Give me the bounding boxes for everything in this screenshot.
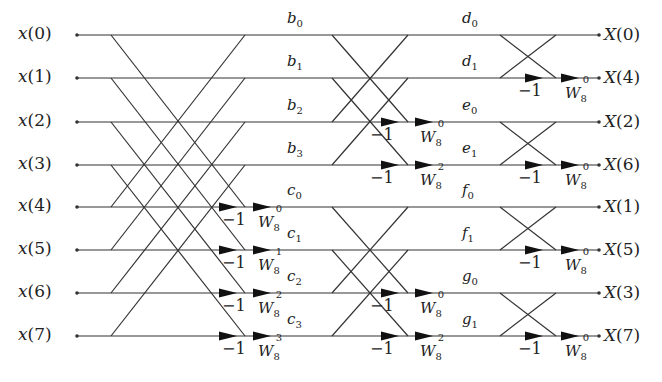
stage1-minus-one-label: −1 — [222, 298, 246, 314]
input-node-dot — [75, 205, 79, 209]
stage3-minus-one-label: −1 — [518, 83, 542, 99]
stage1-twiddle-label: W80 — [258, 213, 286, 233]
stage3-twiddle-arrow — [561, 332, 579, 341]
input-label-2: x(2) — [18, 112, 52, 129]
stage1-twiddle-arrow — [253, 246, 271, 255]
input-label-1: x(1) — [18, 68, 52, 85]
stage3-twiddle-arrow — [561, 161, 579, 170]
input-node-dot — [75, 248, 79, 252]
output-node-dot — [597, 33, 601, 37]
stage2-minus-one-label: −1 — [370, 341, 394, 357]
stage1-twiddle-arrow — [253, 332, 271, 341]
node-label-e0: e0 — [462, 98, 477, 116]
node-label-c1: c1 — [287, 226, 302, 244]
input-node-dot — [75, 291, 79, 295]
stage2-twiddle-label: W82 — [420, 171, 448, 191]
stage3-twiddle-label: W80 — [565, 171, 593, 191]
stage1-minus-one-label: −1 — [222, 255, 246, 271]
node-label-b1: b1 — [287, 54, 303, 72]
input-label-7: x(7) — [18, 326, 52, 343]
node-label-c0: c0 — [287, 183, 302, 201]
input-label-6: x(6) — [18, 283, 52, 300]
stage2-minus-one-label: −1 — [370, 127, 394, 143]
output-label-6: X(3) — [604, 284, 640, 301]
stage2-twiddle-label: W80 — [420, 299, 448, 319]
output-node-dot — [597, 120, 601, 124]
stage2-twiddle-label: W82 — [420, 342, 448, 362]
output-label-7: X(7) — [604, 327, 640, 344]
stage3-twiddle-label: W80 — [565, 256, 593, 276]
output-node-dot — [597, 205, 601, 209]
stage3-minus-one-label: −1 — [518, 255, 542, 271]
stage3-minus-one-label: −1 — [518, 170, 542, 186]
output-node-dot — [597, 76, 601, 80]
node-label-g0: g0 — [462, 269, 478, 287]
node-label-b3: b3 — [287, 141, 303, 159]
stage2-minus-one-label: −1 — [370, 170, 394, 186]
node-label-c2: c2 — [287, 269, 302, 287]
node-label-d0: d0 — [462, 11, 478, 29]
output-label-2: X(2) — [604, 113, 640, 130]
stage2-minus-one-label: −1 — [370, 298, 394, 314]
input-label-3: x(3) — [18, 155, 52, 172]
output-node-dot — [597, 163, 601, 167]
input-label-5: x(5) — [18, 240, 52, 257]
stage2-twiddle-arrow — [415, 118, 433, 127]
output-label-1: X(4) — [604, 69, 640, 86]
stage1-minus-one-label: −1 — [222, 212, 246, 228]
stage2-twiddle-arrow — [415, 289, 433, 298]
stage3-minus-one-label: −1 — [518, 341, 542, 357]
node-label-c3: c3 — [287, 312, 302, 330]
node-label-f0: f0 — [462, 183, 474, 201]
output-label-3: X(6) — [604, 156, 640, 173]
output-label-5: X(5) — [604, 241, 640, 258]
stage3-twiddle-arrow — [561, 74, 579, 83]
output-label-4: X(1) — [604, 198, 640, 215]
input-label-0: x(0) — [18, 25, 52, 42]
output-label-0: X(0) — [604, 26, 640, 43]
stage3-twiddle-arrow — [561, 246, 579, 255]
node-label-b0: b0 — [287, 11, 303, 29]
stage2-twiddle-arrow — [415, 332, 433, 341]
output-node-dot — [597, 291, 601, 295]
input-node-dot — [75, 334, 79, 338]
output-node-dot — [597, 334, 601, 338]
stage2-twiddle-arrow — [415, 161, 433, 170]
node-label-d1: d1 — [462, 54, 478, 72]
stage1-twiddle-label: W81 — [258, 256, 286, 276]
output-node-dot — [597, 248, 601, 252]
stage2-twiddle-label: W80 — [420, 128, 448, 148]
stage1-twiddle-arrow — [253, 203, 271, 212]
input-label-4: x(4) — [18, 197, 52, 214]
signal-flow-graph — [0, 0, 662, 382]
stage3-twiddle-label: W80 — [565, 342, 593, 362]
input-node-dot — [75, 163, 79, 167]
input-node-dot — [75, 120, 79, 124]
stage3-twiddle-label: W80 — [565, 84, 593, 104]
stage1-twiddle-arrow — [253, 289, 271, 298]
stage1-minus-one-label: −1 — [222, 341, 246, 357]
node-label-f1: f1 — [462, 226, 474, 244]
stage1-twiddle-label: W83 — [258, 342, 286, 362]
node-label-e1: e1 — [462, 141, 477, 159]
node-label-g1: g1 — [462, 312, 478, 330]
input-node-dot — [75, 76, 79, 80]
stage1-twiddle-label: W82 — [258, 299, 286, 319]
fft-butterfly-diagram: x(0)x(1)x(2)x(3)x(4)x(5)x(6)x(7)X(0)X(4)… — [0, 0, 662, 382]
node-label-b2: b2 — [287, 98, 303, 116]
input-node-dot — [75, 33, 79, 37]
